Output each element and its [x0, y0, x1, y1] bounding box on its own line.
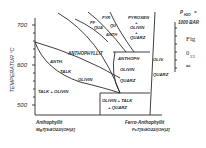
field-pyroxen-quarz: QUARZ	[130, 35, 146, 40]
field-anthoph-olivin: OLIVIN	[120, 67, 135, 72]
field-qu: QU	[110, 23, 116, 28]
field-anth: ANTH.	[49, 59, 63, 64]
field-anthophyllit: ANTHOPHYLLIT	[67, 51, 104, 56]
y-axis-label: TEMPERATUR °C	[9, 47, 15, 92]
field-oliv: OLIV.	[153, 57, 164, 62]
y-tick-600: 600	[17, 62, 28, 68]
boundary-anth-talk-lower	[35, 42, 120, 93]
field-anth-small: ANTH	[105, 32, 117, 37]
x-left-formula: Mg7[Si8O22/(OH)2]	[36, 127, 75, 132]
x-right-name: Ferro-Anthophyllit	[125, 120, 165, 125]
side-num: 0	[186, 49, 189, 56]
y-tick-700: 700	[17, 22, 28, 28]
boundary-right-vertical	[150, 12, 155, 115]
field-olivin-talk: OLIVIN + TALK	[102, 98, 133, 103]
field-olivin-talk-quarz: + QUARZ	[108, 105, 127, 110]
phase-diagram: 700 600 500 TEMPERATUR °C PYROXEN + OLIV…	[0, 0, 206, 148]
side-num-sub: 22	[190, 54, 196, 59]
x-left-name: Anthophyllit	[35, 120, 63, 125]
y-tick-500: 500	[17, 102, 28, 108]
pressure-value: 1000 BAR	[178, 20, 200, 25]
side-as: as	[186, 63, 191, 68]
pressure-eq: =	[194, 10, 197, 15]
x-right-formula: Fe7[Si8O22/(OH)2]	[132, 127, 170, 132]
field-talk: TALK	[60, 69, 72, 74]
boundary-anthophyllit-upper	[35, 42, 120, 78]
field-pyr: PYR	[102, 15, 110, 20]
pressure-sub: H2O	[184, 13, 191, 17]
field-talk-olivin: TALK + OLIVIN	[38, 89, 69, 94]
field-qua: QUA	[94, 25, 103, 30]
field-pyroxen-olivin: OLIVIN	[130, 25, 145, 30]
field-anthoph-quarz: QUARZ	[120, 78, 136, 83]
field-oliv-quarz: QUARZ	[153, 72, 169, 77]
field-anthoph: ANTHOPH	[117, 56, 140, 61]
side-fig: Fig	[186, 35, 196, 43]
field-pyroxen: PYROXEN	[128, 15, 150, 20]
field-olivin: OLIVIN	[78, 77, 93, 82]
